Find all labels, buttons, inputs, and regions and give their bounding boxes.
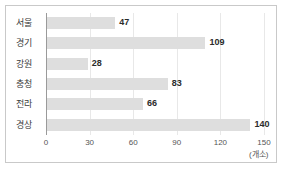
x-tick-label: 30	[75, 138, 105, 147]
category-label: 경기	[6, 33, 42, 53]
bar-row[interactable]: 28	[47, 54, 264, 74]
bar-value-label: 140	[254, 117, 269, 132]
x-tick-label: 90	[162, 138, 192, 147]
bar[interactable]	[47, 58, 88, 70]
category-label: 강원	[6, 54, 42, 74]
category-label: 전라	[6, 94, 42, 114]
bar-row[interactable]: 83	[47, 74, 264, 94]
x-tick-label: 0	[31, 138, 61, 147]
bar-value-label: 109	[209, 35, 224, 50]
bar-row[interactable]: 66	[47, 94, 264, 114]
bar-value-label: 66	[147, 96, 157, 111]
bar-row[interactable]: 140	[47, 115, 264, 135]
bar-value-label: 28	[92, 56, 102, 71]
bar-row[interactable]: 109	[47, 33, 264, 53]
plot-area: 47109288366140	[46, 13, 264, 135]
bar-value-label: 83	[172, 76, 182, 91]
category-label: 경상	[6, 115, 42, 135]
bar-row[interactable]: 47	[47, 13, 264, 33]
x-tick-label: 120	[205, 138, 235, 147]
x-tick-label: 150	[249, 138, 279, 147]
bar[interactable]	[47, 78, 168, 90]
category-label: 충청	[6, 74, 42, 94]
chart-frame: 47109288366140 서울경기강원충청전라경상 030609012015…	[5, 5, 277, 163]
bar[interactable]	[47, 17, 115, 29]
x-tick-label: 60	[118, 138, 148, 147]
bar-value-label: 47	[119, 15, 129, 30]
category-label: 서울	[6, 13, 42, 33]
bar[interactable]	[47, 119, 250, 131]
bar[interactable]	[47, 37, 205, 49]
bar[interactable]	[47, 98, 143, 110]
axis-unit-label: (개소)	[249, 148, 268, 159]
